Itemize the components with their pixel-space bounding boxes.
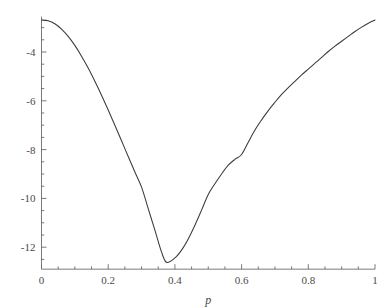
x-tick-label: 0.4 xyxy=(168,275,182,286)
x-tick-label: 0.8 xyxy=(301,275,315,286)
x-axis-title: p xyxy=(205,293,211,307)
y-tick-label: -8 xyxy=(26,144,35,155)
y-tick-label: -10 xyxy=(21,193,36,204)
y-tick-label: -12 xyxy=(21,242,36,253)
plot-canvas xyxy=(0,0,379,307)
x-tick-label: 0.6 xyxy=(235,275,249,286)
x-tick-label: 0.2 xyxy=(101,275,115,286)
y-tick-label: -6 xyxy=(26,95,35,106)
plot-figure: -4-6-8-10-1200.20.40.60.81 p xyxy=(0,0,379,307)
y-tick-label: -4 xyxy=(26,47,35,58)
data-curve xyxy=(42,20,376,262)
x-tick-label: 1 xyxy=(372,275,378,286)
x-tick-label: 0 xyxy=(39,275,45,286)
